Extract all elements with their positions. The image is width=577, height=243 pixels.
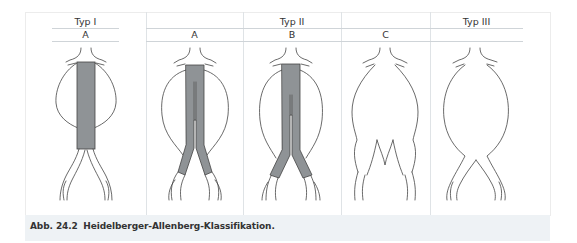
aneurysm-type-3-illustration [444, 48, 509, 200]
aneurysm-type-1a-illustration [56, 48, 116, 200]
figure-caption: Abb. 24.2 Heidelberger-Allenberg-Klassif… [30, 221, 275, 231]
aneurysm-type-2a-illustration [162, 48, 229, 200]
aneurysm-type-2c-illustration [352, 48, 418, 200]
aneurysm-type-2b-illustration [260, 48, 323, 200]
caption-number: Abb. 24.2 [30, 221, 78, 231]
illustration-canvas [0, 0, 577, 243]
caption-text: Heidelberger-Allenberg-Klassifikation. [83, 221, 274, 231]
